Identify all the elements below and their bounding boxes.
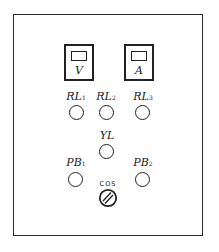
push-button-pb1-label: PB1 (66, 157, 85, 170)
lamp-rl1-label: RL1 (66, 91, 85, 104)
voltmeter-label: V (66, 65, 92, 77)
ammeter-label: A (126, 65, 152, 77)
lamp-rl3-label: RL3 (133, 91, 152, 104)
selector-switch-label: COS (100, 180, 117, 188)
selector-switch-knob[interactable] (98, 188, 118, 208)
lamp-rl2-label: RL2 (96, 91, 115, 104)
voltmeter-window (71, 51, 87, 61)
push-button-pb2[interactable] (135, 172, 150, 187)
ammeter-window (131, 51, 147, 61)
push-button-pb2-label: PB2 (133, 157, 152, 170)
ammeter: A (124, 44, 154, 81)
lamp-yl-label: YL (100, 130, 115, 142)
push-button-pb1[interactable] (68, 172, 83, 187)
lamp-yl[interactable] (99, 144, 114, 159)
knob-body (100, 190, 116, 206)
lamp-rl1[interactable] (69, 105, 84, 120)
lamp-rl3[interactable] (135, 105, 150, 120)
voltmeter: V (64, 44, 94, 81)
lamp-rl2[interactable] (99, 105, 114, 120)
